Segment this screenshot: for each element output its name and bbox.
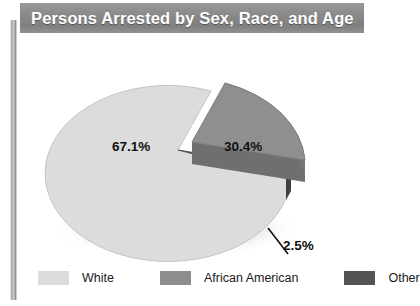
legend-label-white: White xyxy=(82,271,114,285)
pie-value-label-white: 67.1% xyxy=(112,139,150,154)
legend-swatch-african-american xyxy=(160,271,191,285)
pie-value-label-african-american: 30.4% xyxy=(224,139,262,154)
legend-swatch-white xyxy=(38,271,69,285)
pie-chart-plot xyxy=(0,34,364,262)
legend-label-other: Other xyxy=(388,271,419,285)
legend-swatch-other xyxy=(344,271,375,285)
legend-label-african-american: African American xyxy=(204,271,298,285)
legend-item-african-american: African American xyxy=(160,271,298,285)
legend-item-white: White xyxy=(38,271,114,285)
pie-value-label-other: 2.5% xyxy=(283,238,314,253)
page-title: Persons Arrested by Sex, Race, and Age xyxy=(20,9,354,28)
legend-item-other: Other xyxy=(344,271,419,285)
chart-legend: White African American Other xyxy=(20,266,364,290)
chart-title-bar: Persons Arrested by Sex, Race, and Age xyxy=(20,3,364,33)
